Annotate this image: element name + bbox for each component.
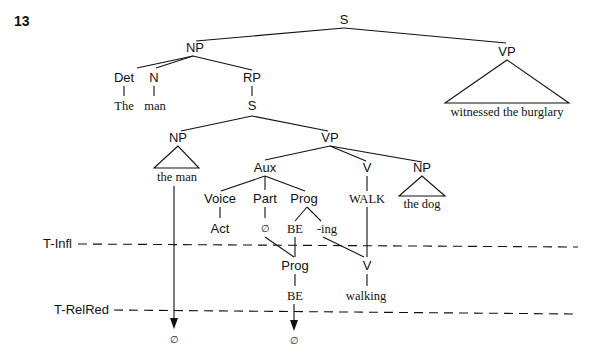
- edge-null-to-derived-prog: [265, 237, 294, 257]
- node-v: V: [363, 160, 372, 175]
- triangle-main-vp: [445, 60, 569, 103]
- edge-vp-np: [330, 146, 422, 162]
- node-root-s: S: [340, 12, 349, 27]
- affix-ing: -ing: [317, 222, 338, 236]
- arrow-down-icon: [290, 320, 298, 331]
- node-part: Part: [253, 191, 277, 206]
- node-subject-np: NP: [186, 40, 204, 55]
- triangle-relative-np: [154, 146, 199, 168]
- word-the: The: [114, 99, 134, 113]
- word-walking: walking: [346, 289, 387, 303]
- node-relative-s: S: [248, 98, 257, 113]
- word-be: BE: [287, 222, 303, 236]
- t-infl-dashed-line: [78, 244, 578, 247]
- edge-ing-to-derived-v: [323, 237, 364, 257]
- word-man: man: [144, 99, 166, 113]
- edge-vp-aux: [265, 146, 330, 160]
- edge-s-vp: [344, 28, 506, 43]
- null-be-result-icon: ∅: [290, 335, 299, 346]
- edge-aux-voice: [221, 176, 265, 191]
- edge-aux-prog: [265, 176, 305, 191]
- edge-np-n: [156, 56, 193, 68]
- node-object-np: NP: [413, 160, 431, 175]
- edge-prog-ing: [307, 207, 321, 221]
- value-act: Act: [211, 221, 230, 236]
- null-part-icon: ∅: [261, 223, 270, 234]
- edge-s-np: [196, 28, 344, 41]
- node-main-vp: VP: [498, 44, 515, 59]
- syntax-tree-diagram: 13 S NP Det The N man RP S VP witnessed …: [0, 0, 595, 363]
- edge-np-det: [137, 56, 193, 68]
- edge-vp-v: [330, 146, 366, 161]
- edge-np-rp: [193, 56, 252, 70]
- lexeme-walk: WALK: [349, 192, 385, 206]
- node-prog: Prog: [290, 191, 317, 206]
- words-relative-np: the man: [157, 170, 198, 184]
- transformation-label-t-relred: T-RelRed: [54, 302, 109, 317]
- node-det: Det: [114, 70, 135, 85]
- arrow-down-icon: [170, 318, 178, 329]
- node-voice: Voice: [204, 191, 236, 206]
- node-relative-vp: VP: [321, 130, 338, 145]
- triangle-object-np: [399, 176, 445, 196]
- words-main-vp: witnessed the burglary: [451, 105, 565, 119]
- words-object-np: the dog: [403, 197, 441, 211]
- node-aux: Aux: [254, 160, 277, 175]
- null-np-result-icon: ∅: [170, 334, 179, 345]
- edge-rels-np: [181, 116, 252, 131]
- t-relred-dashed-line: [114, 310, 578, 314]
- example-number: 13: [14, 13, 30, 29]
- node-derived-prog: Prog: [281, 258, 308, 273]
- transformation-label-t-infl: T-Infl: [43, 236, 72, 251]
- node-derived-v: V: [363, 258, 372, 273]
- word-derived-be: BE: [287, 289, 303, 303]
- node-relative-np: NP: [169, 130, 187, 145]
- node-rp: RP: [243, 70, 261, 85]
- edge-prog-be: [295, 207, 307, 221]
- edge-rels-vp: [252, 116, 328, 131]
- node-n: N: [149, 70, 158, 85]
